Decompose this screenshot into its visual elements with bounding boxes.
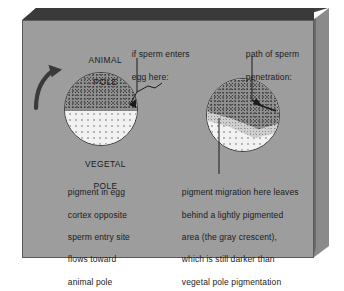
caption-right-line-2: behind a lightly pigmented: [182, 210, 283, 220]
sperm-entry-note: if sperm enters egg here:: [122, 38, 190, 94]
caption-left-line-5: animal pole: [68, 277, 113, 287]
caption-right-line-3: area (the gray crescent),: [182, 232, 277, 242]
animal-pole-label-line2: POLE: [93, 77, 117, 87]
penetration-path-note-line2: penetration:: [246, 72, 292, 82]
caption-right: pigment migration here leaves behind a l…: [172, 176, 299, 291]
penetration-path-note: path of sperm penetration:: [236, 38, 299, 94]
vegetal-pole-label-line1: VEGETAL: [85, 159, 126, 169]
caption-right-line-4: which is still darker than: [182, 254, 275, 264]
penetration-path-note-line1: path of sperm: [246, 49, 299, 59]
caption-left-line-4: flows toward: [68, 254, 116, 264]
curved-rotation-arrow: [36, 62, 63, 108]
caption-right-line-1: pigment migration here leaves: [182, 187, 299, 197]
caption-left-line-2: cortex opposite: [68, 210, 127, 220]
sperm-entry-note-line1: if sperm enters: [132, 49, 190, 59]
caption-right-line-5: vegetal pole pigmentation: [182, 277, 281, 287]
animal-pole-label-line1: ANIMAL: [88, 55, 122, 65]
caption-left: pigment in egg cortex opposite sperm ent…: [58, 176, 130, 291]
caption-left-line-3: sperm entry site: [68, 232, 130, 242]
caption-left-line-1: pigment in egg: [68, 187, 125, 197]
sperm-entry-note-line2: egg here:: [132, 72, 169, 82]
